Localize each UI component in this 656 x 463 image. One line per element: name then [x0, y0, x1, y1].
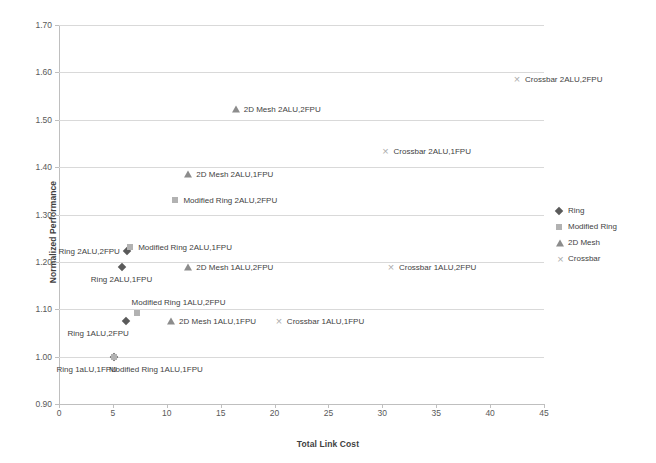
data-point-label: Ring 2ALU,1FPU	[91, 274, 152, 283]
gridline	[59, 167, 544, 168]
cross-marker	[513, 75, 522, 84]
x-tick-mark	[113, 404, 114, 408]
x-tick-mark	[490, 404, 491, 408]
x-tick-label: 25	[308, 408, 348, 418]
gridline	[59, 215, 544, 216]
x-tick-label: 15	[201, 408, 241, 418]
triangle-marker	[556, 240, 564, 247]
x-tick-label: 30	[362, 408, 402, 418]
cross-marker	[381, 147, 390, 156]
x-tick-label: 35	[416, 408, 456, 418]
legend-label: Modified Ring	[568, 219, 617, 235]
legend-item-2d-mesh[interactable]: 2D Mesh	[556, 235, 652, 251]
x-tick-mark	[221, 404, 222, 408]
gridline	[59, 72, 544, 73]
gridline	[59, 357, 544, 358]
square-marker	[127, 244, 133, 250]
y-tick-label: 1.50	[0, 115, 52, 125]
diamond-marker	[117, 262, 125, 270]
data-point-label: Crossbar 1ALU,2FPU	[399, 262, 476, 271]
data-point-label: Crossbar 2ALU,1FPU	[394, 147, 471, 156]
legend-label: 2D Mesh	[568, 235, 600, 251]
gridline	[59, 25, 544, 26]
diamond-marker	[122, 317, 130, 325]
y-tick-label: 1.10	[0, 304, 52, 314]
y-tick-label: 1.40	[0, 162, 52, 172]
x-tick-mark	[382, 404, 383, 408]
data-point-label: 2D Mesh 2ALU,2FPU	[244, 105, 321, 114]
y-tick-label: 1.30	[0, 210, 52, 220]
data-point-label: Ring 2ALU,2FPU	[59, 247, 120, 256]
square-marker	[172, 197, 178, 203]
x-tick-label: 5	[93, 408, 133, 418]
data-point-label: Modified Ring 1ALU,1FPU	[109, 364, 203, 373]
gridline	[59, 309, 544, 310]
y-tick-label: 1.60	[0, 67, 52, 77]
data-point-label: Ring 1ALU,2FPU	[67, 329, 128, 338]
plot-area: Ring 2ALU,2FPURing 2ALU,1FPURing 1ALU,2F…	[59, 25, 544, 404]
data-point-label: Modified Ring 1ALU,2FPU	[132, 297, 226, 306]
square-marker	[134, 310, 140, 316]
y-axis-title: Normalized Performance	[48, 180, 58, 282]
gridline	[59, 120, 544, 121]
triangle-marker	[167, 318, 175, 325]
x-tick-mark	[275, 404, 276, 408]
data-point-label: 2D Mesh 2ALU,1FPU	[196, 170, 273, 179]
data-point-label: Modified Ring 2ALU,1FPU	[138, 242, 232, 251]
x-tick-label: 45	[524, 408, 564, 418]
x-tick-mark	[544, 404, 545, 408]
legend-label: Ring	[568, 203, 584, 219]
legend-item-ring[interactable]: Ring	[556, 203, 652, 219]
scatter-chart: Normalized Performance Total Link Cost 0…	[0, 0, 656, 463]
data-point-label: 2D Mesh 1ALU,1FPU	[179, 317, 256, 326]
triangle-marker	[184, 171, 192, 178]
legend-item-modified-ring[interactable]: Modified Ring	[556, 219, 652, 235]
data-point-label: Modified Ring 2ALU,2FPU	[183, 196, 277, 205]
y-tick-label: 1.20	[0, 257, 52, 267]
y-tick-label: 1.00	[0, 352, 52, 362]
x-tick-label: 0	[39, 408, 79, 418]
x-tick-label: 40	[470, 408, 510, 418]
data-point-label: Crossbar 2ALU,2FPU	[525, 75, 602, 84]
cross-marker	[386, 262, 395, 271]
y-tick-label: 1.70	[0, 20, 52, 30]
data-point-label: Ring 1aLU,1FPU	[56, 364, 116, 373]
square-marker	[556, 224, 562, 230]
x-axis-line	[59, 404, 545, 405]
x-tick-mark	[59, 404, 60, 408]
legend: RingModified Ring2D MeshCrossbar	[556, 203, 652, 267]
x-tick-label: 10	[147, 408, 187, 418]
square-marker	[111, 354, 117, 360]
x-tick-mark	[436, 404, 437, 408]
x-tick-mark	[328, 404, 329, 408]
x-tick-mark	[167, 404, 168, 408]
data-point-label: 2D Mesh 1ALU,2FPU	[196, 262, 273, 271]
legend-label: Crossbar	[568, 251, 600, 267]
x-tick-label: 20	[255, 408, 295, 418]
diamond-marker	[555, 207, 563, 215]
legend-item-crossbar[interactable]: Crossbar	[556, 251, 652, 267]
data-point-label: Crossbar 1ALU,1FPU	[287, 317, 364, 326]
cross-marker	[556, 255, 565, 264]
triangle-marker	[184, 263, 192, 270]
x-axis-title: Total Link Cost	[0, 439, 656, 449]
triangle-marker	[232, 106, 240, 113]
cross-marker	[274, 317, 283, 326]
